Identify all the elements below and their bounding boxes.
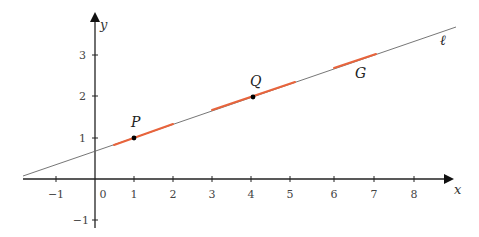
point-q-label: Q [250, 73, 262, 89]
x-tick-label: 1 [131, 188, 138, 201]
x-axis-label: x [454, 182, 462, 197]
line-l-label: ℓ [440, 32, 446, 48]
point-p-label: P [130, 114, 141, 130]
segment-near-p [114, 124, 173, 145]
point-q [251, 95, 256, 100]
y-axis-label: y [99, 17, 108, 32]
x-tick-label: 5 [287, 188, 294, 201]
x-tick-label: 7 [371, 188, 378, 201]
x-tick-label: 8 [411, 188, 418, 201]
x-tick-label: −1 [48, 188, 64, 201]
coordinate-diagram: −1 1 2 3 4 5 6 7 8 0 3 2 1 −1 x y P Q G … [0, 0, 479, 237]
segment-g-label: G [355, 65, 366, 81]
y-tick-label: −1 [73, 214, 89, 227]
x-tick-label: 4 [248, 188, 255, 201]
y-tick-label: 1 [79, 132, 86, 145]
y-tick-label: 3 [79, 49, 86, 62]
x-tick-label: 3 [209, 188, 216, 201]
highlight-segments [114, 54, 376, 145]
x-tick-label: 6 [331, 188, 338, 201]
y-tick-label: 2 [79, 90, 86, 103]
point-p [132, 136, 137, 141]
x-tick-label: 2 [170, 188, 177, 201]
origin-label: 0 [100, 188, 107, 201]
